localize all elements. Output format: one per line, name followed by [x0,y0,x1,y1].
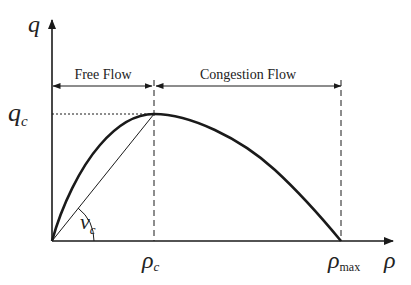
vc-label: vc [80,209,96,237]
rho-max-label: ρmax [327,247,360,274]
qc-label: qc [8,98,28,129]
rho-c-label: ρc [141,247,160,274]
x-axis-label: ρ [383,247,396,273]
vc-secant-line [52,114,154,241]
congestion-flow-label: Congestion Flow [200,67,297,82]
y-axis-label: q [28,11,40,37]
free-flow-label: Free Flow [74,67,132,82]
fundamental-diagram: q ρ Free Flow Congestion Flow qc vc ρc ρ… [0,0,411,285]
